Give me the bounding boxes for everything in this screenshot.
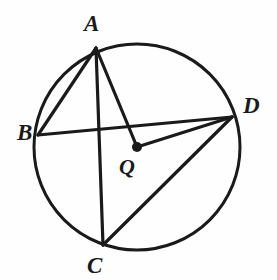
vertex-label-d: D xyxy=(243,94,260,117)
center-point-dot xyxy=(132,142,142,152)
vertex-label-c: C xyxy=(87,254,102,277)
vertex-label-a: A xyxy=(84,12,99,35)
segment-chord-AB xyxy=(38,48,96,135)
center-label-q: Q xyxy=(119,156,135,178)
geometry-diagram: A B C D Q xyxy=(0,0,277,280)
segment-radius-AQ xyxy=(96,48,137,147)
segment-chord-AC xyxy=(96,48,103,245)
vertex-label-b: B xyxy=(17,121,32,144)
circle-geometry-figure xyxy=(0,0,277,280)
